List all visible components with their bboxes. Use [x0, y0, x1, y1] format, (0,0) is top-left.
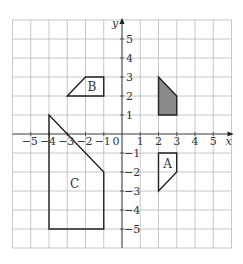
y-tick-label: 2 — [126, 90, 133, 103]
y-tick-label: 1 — [126, 109, 133, 122]
y-tick-label: −4 — [124, 204, 140, 217]
y-tick-label: 3 — [126, 71, 133, 84]
axes — [13, 18, 234, 248]
x-tick-label: −5 — [22, 135, 38, 148]
y-axis-label: y — [111, 17, 119, 30]
shape-label-b: B — [87, 80, 96, 94]
y-tick-label: 5 — [126, 33, 133, 46]
x-tick-label: −2 — [76, 135, 92, 148]
x-axis-label: x — [225, 135, 232, 148]
x-tick-label: 4 — [192, 135, 199, 148]
shape-shaded — [159, 77, 177, 115]
tick-labels: −5−4−3−2−112345054321−1−2−3−4−5xy — [22, 17, 233, 236]
x-tick-label: 5 — [210, 135, 217, 148]
x-tick-label: −3 — [58, 135, 74, 148]
x-tick-label: −4 — [40, 135, 56, 148]
coordinate-grid-figure: ABC −5−4−3−2−112345054321−1−2−3−4−5xy — [0, 0, 243, 264]
y-tick-label: −5 — [124, 223, 140, 236]
shape-label-a: A — [162, 157, 172, 171]
y-tick-label: −2 — [124, 166, 140, 179]
y-axis-arrow-icon — [119, 18, 124, 24]
y-tick-label: −3 — [124, 185, 140, 198]
y-tick-label: 4 — [126, 52, 133, 65]
x-tick-label: −1 — [95, 135, 111, 148]
x-tick-label: 3 — [173, 135, 180, 148]
shape-label-c: C — [70, 177, 79, 191]
y-tick-label: −1 — [124, 147, 140, 160]
x-tick-label: 2 — [155, 135, 162, 148]
origin-label: 0 — [113, 135, 120, 148]
